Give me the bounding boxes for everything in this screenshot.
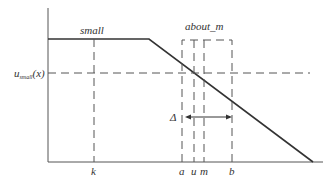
delta-label: Δ bbox=[169, 111, 176, 123]
delta-arrow-right-head bbox=[226, 115, 232, 120]
u-small-sub: small bbox=[20, 74, 33, 80]
membership-function-diagram: small about_m usmall(x) Δ k a u m b bbox=[0, 0, 336, 183]
u-small-x-label: usmall(x) bbox=[14, 67, 45, 80]
about-m-label: about_m bbox=[185, 20, 224, 32]
u-label: u bbox=[191, 165, 197, 177]
about-m-box bbox=[182, 40, 232, 162]
k-label: k bbox=[91, 165, 97, 177]
u-small-arg: (x) bbox=[33, 67, 46, 80]
delta-arrow-left-head bbox=[185, 115, 191, 120]
a-label: a bbox=[179, 165, 185, 177]
m-label: m bbox=[200, 165, 208, 177]
small-label: small bbox=[80, 24, 104, 36]
b-label: b bbox=[229, 165, 235, 177]
small-membership-curve bbox=[48, 39, 313, 162]
